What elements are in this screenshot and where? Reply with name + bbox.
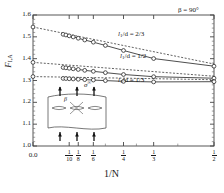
data-point bbox=[83, 38, 87, 42]
inset-arrow-top-head bbox=[75, 87, 79, 91]
series-intercept-marker-0 bbox=[31, 25, 35, 29]
y-tick-label: 1.5 bbox=[7, 32, 31, 40]
series-label-2: l1/d = 1/3 bbox=[118, 76, 144, 84]
data-point bbox=[152, 57, 156, 61]
series-label-2-rest: /d = 1/3 bbox=[122, 76, 144, 84]
data-point bbox=[152, 80, 156, 84]
inset-arrow-bottom-head bbox=[58, 133, 62, 137]
inset-arrow-bottom-head bbox=[92, 133, 96, 137]
inset-arrow-top-head bbox=[58, 87, 62, 91]
y-tick-label: 1.2 bbox=[7, 97, 31, 105]
data-point bbox=[71, 67, 75, 71]
data-point bbox=[76, 36, 80, 40]
x-tick-label: 0.0 bbox=[23, 151, 43, 159]
data-point bbox=[76, 77, 80, 81]
series-label-1: l1/d = 1/2 bbox=[120, 52, 146, 60]
inset-plate bbox=[48, 94, 106, 129]
y-tick-label: 1.3 bbox=[7, 76, 31, 84]
data-point bbox=[67, 66, 71, 70]
data-point bbox=[212, 80, 216, 84]
inset-beta-label: β bbox=[64, 96, 67, 102]
y-tick-label: 1.1 bbox=[7, 119, 31, 127]
inset-crack bbox=[70, 106, 84, 109]
inset-crack bbox=[88, 106, 102, 109]
y-tick-label: 1.6 bbox=[7, 10, 31, 18]
data-point bbox=[152, 75, 156, 79]
data-point bbox=[71, 35, 75, 39]
stress-infinity: ∞ bbox=[87, 80, 91, 85]
data-point bbox=[104, 44, 108, 48]
data-point bbox=[104, 71, 108, 75]
data-point bbox=[212, 64, 216, 68]
x-tick-label: 14 bbox=[114, 149, 134, 163]
figure-root: FI,A 1/N β = 90° l1/d = 2/3 l1/d = 1/2 l… bbox=[0, 0, 224, 193]
x-axis-label: 1/N bbox=[104, 168, 119, 179]
series-label-1-rest: /d = 1/2 bbox=[124, 52, 146, 60]
data-point bbox=[91, 69, 95, 73]
data-point bbox=[91, 78, 95, 82]
data-point bbox=[71, 77, 75, 81]
y-axis-label-text: F bbox=[3, 62, 13, 68]
x-tick-label: 13 bbox=[144, 149, 164, 163]
y-tick-label: 1.4 bbox=[7, 54, 31, 62]
series-intercept-marker-2 bbox=[31, 75, 35, 79]
data-point bbox=[76, 68, 80, 72]
data-point bbox=[67, 77, 71, 81]
series-intercept-marker-1 bbox=[31, 60, 35, 64]
x-tick-label: 16 bbox=[83, 149, 103, 163]
x-tick-label: 12 bbox=[204, 149, 224, 163]
series-label-0: l1/d = 2/3 bbox=[118, 30, 144, 38]
inset-schematic bbox=[48, 87, 106, 141]
inset-arrow-top-head bbox=[92, 87, 96, 91]
data-point bbox=[104, 79, 108, 83]
series-label-0-rest: /d = 2/3 bbox=[122, 30, 144, 38]
y-tick-label: 1.0 bbox=[7, 141, 31, 149]
chart-canvas bbox=[0, 0, 224, 193]
stress-symbol-label: σ∞ bbox=[84, 80, 91, 89]
inset-crack bbox=[52, 106, 66, 109]
data-point bbox=[67, 34, 71, 38]
data-point bbox=[83, 68, 87, 72]
beta-annotation: β = 90° bbox=[178, 6, 199, 14]
inset-arrow-bottom-head bbox=[75, 133, 79, 137]
data-point bbox=[91, 40, 95, 44]
